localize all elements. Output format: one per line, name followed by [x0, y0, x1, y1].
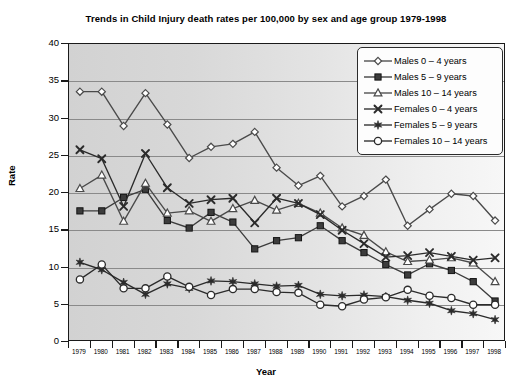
x-axis-tick-mark — [418, 341, 419, 348]
data-point-triangle-open — [98, 171, 106, 178]
legend-item-5[interactable]: Females 10 – 14 years — [363, 133, 498, 149]
x-axis-tick-label: 1990 — [308, 348, 330, 355]
data-point-triangle-open — [251, 196, 259, 203]
legend-item-0[interactable]: Males 0 – 4 years — [363, 53, 498, 69]
y-axis-tick-mark — [61, 43, 68, 44]
data-point-circle-open — [404, 286, 411, 293]
data-point-circle-open — [360, 296, 367, 303]
data-point-star-filled — [491, 315, 499, 324]
y-axis-tick-mark — [61, 118, 68, 119]
data-point-circle-open — [426, 292, 433, 299]
data-point-circle-open — [448, 294, 455, 301]
legend-marker-x-cross-icon — [363, 101, 393, 117]
x-axis-tick-label: 1991 — [330, 348, 352, 355]
y-axis: 4035302520151050 — [0, 43, 68, 341]
x-axis-tick-mark — [199, 341, 200, 348]
data-point-circle-open — [98, 261, 105, 268]
y-axis-title: Rate — [6, 165, 17, 186]
x-axis-tick-label: 1985 — [199, 348, 221, 355]
data-point-square-filled — [470, 279, 476, 285]
data-point-square-filled — [317, 223, 323, 229]
data-point-circle-open — [491, 301, 498, 308]
data-point-x-cross — [251, 219, 258, 226]
data-point-diamond-open — [229, 140, 236, 147]
legend-marker-triangle-open-icon — [363, 85, 393, 101]
y-axis-tick-mark — [61, 341, 68, 342]
data-point-square-filled — [375, 74, 381, 80]
x-axis-tick-mark — [505, 341, 506, 348]
x-axis-tick-label: 1988 — [265, 348, 287, 355]
series-4 — [76, 258, 499, 324]
x-axis-tick-mark — [352, 341, 353, 348]
x-axis-tick-label: 1981 — [112, 348, 134, 355]
x-axis-tick-mark — [374, 341, 375, 348]
x-axis-tick-label: 1987 — [243, 348, 265, 355]
data-point-diamond-open — [207, 143, 214, 150]
y-axis-tick-mark — [61, 155, 68, 156]
data-point-circle-open — [382, 294, 389, 301]
legend-marker-diamond-open-icon — [363, 53, 393, 69]
x-axis-tick-label: 1989 — [287, 348, 309, 355]
data-point-circle-open — [229, 286, 236, 293]
x-axis-tick-mark — [177, 341, 178, 348]
chart-title: Trends in Child Injury death rates per 1… — [0, 13, 532, 24]
legend-marker-star-filled-icon — [363, 117, 393, 133]
x-axis-tick-label: 1983 — [155, 348, 177, 355]
x-axis-tick-label: 1995 — [418, 348, 440, 355]
y-axis-tick-label: 40 — [19, 36, 59, 50]
series-2 — [76, 171, 499, 285]
x-axis-tick-mark — [134, 341, 135, 348]
x-axis-tick-mark — [265, 341, 266, 348]
data-point-circle-open — [186, 283, 193, 290]
data-point-circle-open — [76, 276, 83, 283]
data-point-square-filled — [208, 209, 214, 215]
y-axis-tick-label: 30 — [19, 111, 59, 125]
legend-label: Males 0 – 4 years — [393, 56, 467, 66]
y-axis-tick-label: 25 — [19, 148, 59, 162]
y-axis-tick-label: 0 — [19, 334, 59, 348]
x-axis-tick-mark — [112, 341, 113, 348]
x-axis-tick-label: 1997 — [461, 348, 483, 355]
data-point-x-cross — [164, 184, 171, 191]
x-axis-tick-mark — [221, 341, 222, 348]
data-point-square-filled — [164, 217, 170, 223]
data-point-circle-open — [273, 288, 280, 295]
data-point-square-filled — [252, 246, 258, 252]
x-axis-tick-mark — [155, 341, 156, 348]
data-point-diamond-open — [98, 88, 105, 95]
data-point-x-cross — [98, 155, 105, 162]
data-point-circle-open — [207, 291, 214, 298]
data-point-diamond-open — [120, 122, 127, 129]
data-point-circle-open — [142, 285, 149, 292]
legend-item-4[interactable]: Females 5 – 9 years — [363, 117, 498, 133]
data-point-star-filled — [76, 258, 84, 267]
data-point-circle-open — [339, 303, 346, 310]
data-point-x-cross — [360, 240, 367, 247]
y-axis-tick-label: 5 — [19, 297, 59, 311]
x-axis-tick-mark — [308, 341, 309, 348]
legend-item-2[interactable]: Males 10 – 14 years — [363, 85, 498, 101]
series-line — [80, 150, 495, 260]
y-axis-tick-label: 35 — [19, 73, 59, 87]
legend-item-3[interactable]: Females 0 – 4 years — [363, 101, 498, 117]
x-axis-tick-mark — [439, 341, 440, 348]
legend-marker-square-filled-icon — [363, 69, 393, 85]
series-1 — [77, 186, 498, 304]
y-axis-tick-label: 20 — [19, 185, 59, 199]
x-axis-tick-label: 1998 — [483, 348, 505, 355]
x-axis-tick-label: 1979 — [68, 348, 90, 355]
data-point-triangle-open — [120, 217, 128, 224]
data-point-square-filled — [273, 238, 279, 244]
data-point-diamond-open — [374, 57, 381, 64]
x-axis-tick-mark — [90, 341, 91, 348]
x-axis-tick-mark — [330, 341, 331, 348]
data-point-circle-open — [374, 137, 381, 144]
x-axis-tick-mark — [243, 341, 244, 348]
legend-marker-circle-open-icon — [363, 133, 393, 149]
data-point-square-filled — [383, 261, 389, 267]
data-point-square-filled — [405, 272, 411, 278]
x-axis-tick-label: 1984 — [177, 348, 199, 355]
data-point-circle-open — [295, 289, 302, 296]
legend-item-1[interactable]: Males 5 – 9 years — [363, 69, 498, 85]
x-axis-tick-mark — [68, 341, 69, 348]
